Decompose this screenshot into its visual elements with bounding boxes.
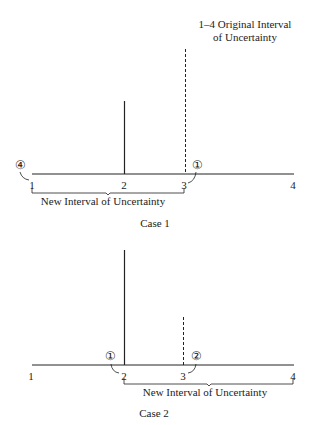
case-1-marker-4: ④	[15, 158, 26, 172]
case-1-diagram: 1 2 3 4 ④ ① New Interval of Uncertainty …	[15, 49, 297, 229]
annotation-line-1: 1–4 Original Interval	[199, 18, 292, 30]
case-2-tick-1: 1	[28, 370, 34, 382]
case-1-title: Case 1	[140, 217, 170, 229]
case-2-diagram: 1 2 3 4 ① ② New Interval of Uncertainty …	[28, 250, 296, 419]
annotation-line-2: of Uncertainty	[213, 31, 277, 43]
case-2-new-interval-label: New Interval of Uncertainty	[143, 386, 268, 398]
interval-diagram: 1–4 Original Interval of Uncertainty 1 2…	[0, 0, 320, 425]
case-2-new-interval-brace	[124, 378, 293, 386]
case-1-marker-4-leader	[20, 172, 29, 180]
case-1-new-interval-label: New Interval of Uncertainty	[41, 195, 166, 207]
case-1-marker-1: ①	[192, 158, 203, 172]
case-2-title: Case 2	[139, 407, 169, 419]
case-1-new-interval-brace	[32, 188, 184, 195]
case-1-tick-2: 2	[121, 179, 127, 191]
case-2-tick-3: 3	[180, 370, 186, 382]
case-1-tick-4: 4	[290, 179, 296, 191]
case-2-marker-1: ①	[105, 349, 116, 363]
case-2-marker-2: ②	[191, 349, 202, 363]
